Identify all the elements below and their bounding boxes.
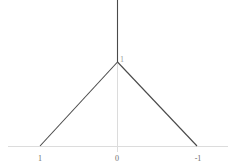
plot-canvas [0,0,234,168]
x-tick-label-center: 0 [115,155,119,163]
tent-right-arm [118,62,198,146]
peak-value-label: 1 [120,56,124,64]
plot-figure: 1 1 0 -1 [0,0,234,168]
x-tick-label-right: -1 [195,155,202,163]
tent-left-arm [40,62,118,146]
x-tick-label-left: 1 [38,155,42,163]
